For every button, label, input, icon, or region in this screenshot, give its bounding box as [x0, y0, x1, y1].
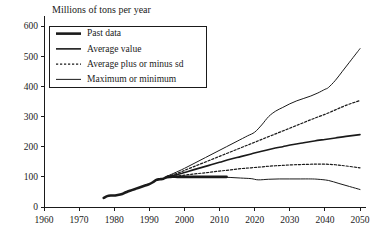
series-line: [167, 177, 360, 189]
legend-label: Past data: [87, 28, 122, 38]
y-tick-label: 600: [24, 21, 39, 31]
legend-label: Average plus or minus sd: [87, 59, 184, 69]
y-axis: 0100200300400500600: [24, 16, 44, 212]
y-tick-label: 0: [33, 202, 38, 212]
chart-legend: Past dataAverage valueAverage plus or mi…: [49, 26, 206, 87]
y-tick-label: 300: [24, 112, 39, 122]
legend-label: Average value: [87, 44, 141, 54]
x-tick-label: 2040: [315, 215, 334, 225]
series-line: [167, 135, 360, 177]
x-tick-label: 2050: [351, 215, 370, 225]
x-tick-label: 1970: [70, 215, 89, 225]
series-line: [104, 177, 227, 198]
y-tick-label: 100: [24, 172, 39, 182]
series-line: [167, 164, 360, 177]
y-tick-label: 400: [24, 82, 39, 92]
x-tick-label: 2030: [280, 215, 299, 225]
y-tick-label: 500: [24, 52, 39, 62]
x-tick-label: 2000: [175, 215, 194, 225]
x-axis: 1960197019801990200020102020203020402050: [35, 207, 370, 225]
line-chart: Millions of tons per year 01002003004005…: [0, 0, 381, 245]
x-tick-label: 1980: [105, 215, 124, 225]
x-tick-label: 2010: [210, 215, 229, 225]
chart-container: Millions of tons per year 01002003004005…: [0, 0, 381, 245]
y-tick-label: 200: [24, 142, 39, 152]
x-tick-label: 1990: [140, 215, 159, 225]
legend-label: Maximum or minimum: [87, 74, 177, 84]
x-tick-label: 1960: [35, 215, 54, 225]
chart-title: Millions of tons per year: [52, 4, 152, 15]
x-tick-label: 2020: [245, 215, 264, 225]
